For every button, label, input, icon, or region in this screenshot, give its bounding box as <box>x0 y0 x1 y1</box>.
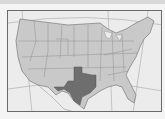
top-edge <box>0 0 165 4</box>
map-frame: United States Texas <box>7 10 162 112</box>
us-map <box>8 11 162 112</box>
